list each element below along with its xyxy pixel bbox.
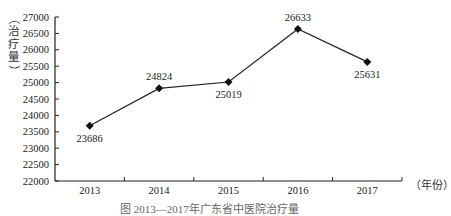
data-label: 26633 (285, 12, 311, 23)
y-tick-label: 23000 (23, 143, 49, 154)
diamond-marker-icon (363, 58, 371, 66)
y-axis-title: （ 治 疗 量 ） (6, 12, 20, 77)
x-tick-label: 2015 (218, 185, 239, 196)
y-tick-label: 26000 (23, 44, 49, 55)
data-labels: 2368624824250192663325631 (77, 12, 381, 144)
y-title-char: 疗 (6, 38, 20, 51)
data-label: 24824 (146, 71, 173, 82)
y-tick-label: 23500 (23, 126, 49, 137)
data-label: 25631 (354, 69, 380, 80)
y-tick-label: 24500 (23, 94, 49, 105)
data-label: 25019 (215, 89, 241, 100)
x-axis: 20132014201520162017 (55, 177, 402, 196)
figure-caption: 图 2013—2017年广东省中医院治疗量 (120, 200, 299, 216)
y-tick-label: 24000 (23, 110, 49, 121)
diamond-marker-icon (86, 122, 94, 130)
y-title-open-paren: （ (7, 12, 20, 26)
x-axis-unit-label: （年份） (410, 176, 451, 192)
series-line (90, 29, 368, 126)
diamond-marker-icon (155, 84, 163, 92)
data-label: 23686 (77, 133, 103, 144)
y-tick-label: 25500 (23, 61, 49, 72)
y-title-char: 量 (6, 51, 20, 64)
x-tick-label: 2013 (79, 185, 100, 196)
y-tick-label: 22000 (23, 176, 49, 187)
y-title-char: 治 (6, 25, 20, 38)
y-title-close-paren: ） (7, 64, 20, 78)
y-tick-label: 22500 (23, 159, 49, 170)
y-tick-label: 26500 (23, 28, 49, 39)
x-tick-label: 2014 (149, 185, 171, 196)
data-points (86, 25, 372, 130)
y-axis: 2200022500230002350024000245002500025500… (23, 12, 59, 187)
x-tick-label: 2017 (357, 185, 378, 196)
y-tick-label: 25000 (23, 77, 49, 88)
y-tick-label: 27000 (23, 12, 49, 23)
x-tick-label: 2016 (287, 185, 308, 196)
